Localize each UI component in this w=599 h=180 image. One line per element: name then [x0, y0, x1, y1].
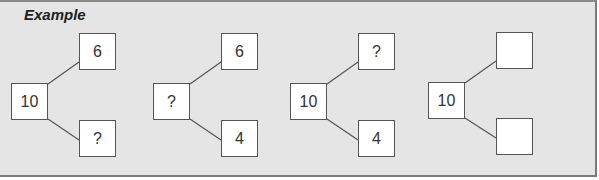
- part-top-box: ?: [358, 33, 395, 70]
- part-bottom-box[interactable]: [496, 118, 533, 155]
- part-bottom-box: 4: [221, 120, 258, 157]
- number-bond-2: ? 6 4: [142, 2, 282, 179]
- part-top-box: 6: [221, 33, 258, 70]
- part-bottom-box: ?: [79, 120, 116, 157]
- part-top-box[interactable]: [496, 32, 533, 69]
- whole-box: ?: [153, 83, 190, 120]
- part-bottom-box: 4: [358, 120, 395, 157]
- number-bond-4: 10: [417, 2, 557, 179]
- part-top-box: 6: [79, 33, 116, 70]
- whole-box: 10: [428, 82, 465, 119]
- whole-box: 10: [11, 83, 48, 120]
- example-panel: Example 10 6 ? ? 6 4 10 ? 4 10: [0, 0, 597, 177]
- number-bond-3: 10 ? 4: [279, 2, 419, 179]
- number-bond-1: 10 6 ?: [0, 2, 140, 179]
- whole-box: 10: [290, 83, 327, 120]
